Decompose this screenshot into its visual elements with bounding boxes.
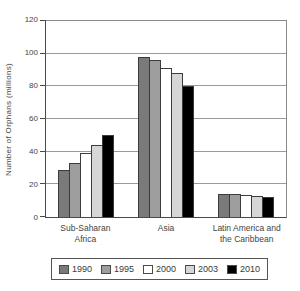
legend: 19901995200020032010 — [51, 258, 268, 280]
legend-item: 2010 — [227, 264, 260, 274]
y-tick-label: 40 — [29, 148, 38, 156]
legend-label: 2000 — [156, 264, 176, 274]
legend-item: 2003 — [185, 264, 218, 274]
legend-swatch — [227, 265, 237, 274]
bar-group — [206, 21, 286, 217]
bar-group — [126, 21, 206, 217]
y-tick-label: 0 — [34, 214, 38, 222]
y-tick-label: 80 — [29, 82, 38, 90]
bar-2010 — [102, 135, 114, 217]
legend-item: 1990 — [59, 264, 92, 274]
bar-2010 — [182, 86, 194, 217]
orphans-bar-chart: Number of Orphans (millions) 02040608010… — [0, 0, 300, 291]
legend-label: 1990 — [72, 264, 92, 274]
category-label: Latin America andthe Caribbean — [206, 223, 287, 245]
category-label: Asia — [126, 223, 207, 245]
category-label-line: the Caribbean — [206, 234, 287, 245]
bar-groups — [46, 21, 286, 217]
y-axis-tick-labels: 020406080100120 — [0, 20, 40, 218]
legend-swatch — [101, 265, 111, 274]
legend-item: 1995 — [101, 264, 134, 274]
legend-item: 2000 — [143, 264, 176, 274]
legend-swatch — [143, 265, 153, 274]
category-label-line: Africa — [45, 234, 126, 245]
y-tick-label: 120 — [25, 16, 38, 24]
category-label-line: Sub-Saharan — [45, 223, 126, 234]
y-tick-label: 60 — [29, 115, 38, 123]
legend-label: 2010 — [240, 264, 260, 274]
category-label: Sub-SaharanAfrica — [45, 223, 126, 245]
bar-2010 — [262, 197, 274, 217]
plot-area — [45, 20, 287, 218]
bar-group — [46, 21, 126, 217]
y-tick-label: 20 — [29, 181, 38, 189]
y-tick-label: 100 — [25, 49, 38, 57]
category-label-line: Asia — [126, 223, 207, 234]
legend-swatch — [59, 265, 69, 274]
legend-swatch — [185, 265, 195, 274]
legend-label: 2003 — [198, 264, 218, 274]
category-label-line: Latin America and — [206, 223, 287, 234]
x-axis-labels: Sub-SaharanAfricaAsiaLatin America andth… — [45, 223, 287, 245]
legend-label: 1995 — [114, 264, 134, 274]
